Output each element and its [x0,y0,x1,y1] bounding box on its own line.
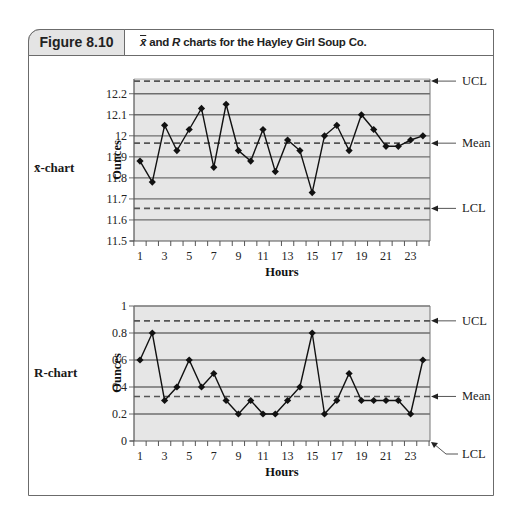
x-tick-label: 21 [380,449,392,463]
annotation-lcl: LCL [431,442,486,461]
arrow-icon [431,318,438,324]
y-tick-label: 0.2 [112,407,127,421]
annotation-label: Mean [462,389,491,403]
x-tick-label: 1 [137,449,143,463]
arrow-icon [431,393,438,399]
x-tick-label: 9 [235,449,241,463]
x-axis-title: Hours [265,465,298,479]
x-tick-label: 15 [306,449,318,463]
x-tick-label: 13 [282,449,294,463]
x-tick-label: 3 [162,449,168,463]
x-tick-label: 23 [405,449,417,463]
r-chart: 00.20.40.60.811357911131517192123UCLMean… [0,0,518,523]
y-tick-label: 0.8 [112,326,127,340]
x-tick-label: 17 [331,449,343,463]
x-tick-label: 11 [257,449,269,463]
annotation-mean: Mean [431,389,491,403]
x-tick-label: 19 [355,449,367,463]
y-axis-title: Ounces [110,353,124,393]
y-tick-label: 0 [121,434,127,448]
y-tick-label: 1 [121,299,127,313]
x-tick-label: 5 [186,449,192,463]
plot-area [134,306,430,441]
annotation-label: LCL [462,447,486,461]
annotation-label: UCL [462,314,487,328]
x-tick-label: 7 [211,449,217,463]
annotation-ucl: UCL [431,314,487,328]
